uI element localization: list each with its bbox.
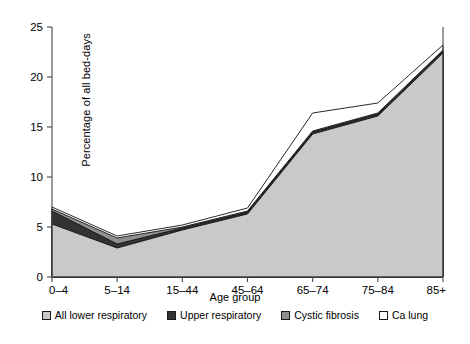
- y-tick-label: 20: [30, 71, 43, 83]
- y-tick-label: 0: [37, 271, 43, 283]
- legend-item-ca-lung[interactable]: Ca lung: [379, 309, 428, 321]
- chart-figure: 05101520250–45–1415–4445–6465–7475–8485+…: [0, 0, 470, 344]
- legend-item-upper-respiratory[interactable]: Upper respiratory: [167, 309, 261, 321]
- legend-swatch-icon: [167, 311, 176, 320]
- y-tick-label: 15: [30, 121, 43, 133]
- y-tick-label: 25: [30, 21, 43, 33]
- legend-label: Ca lung: [392, 309, 428, 321]
- legend-label: Upper respiratory: [180, 309, 261, 321]
- legend-swatch-icon: [281, 311, 290, 320]
- legend-swatch-icon: [379, 311, 388, 320]
- legend-label: All lower respiratory: [55, 309, 147, 321]
- chart-legend: All lower respiratoryUpper respiratoryCy…: [0, 309, 470, 321]
- legend-item-all-lower-respiratory[interactable]: All lower respiratory: [42, 309, 147, 321]
- y-tick-label: 10: [30, 171, 43, 183]
- x-axis-label: Age group: [0, 291, 470, 303]
- y-tick-label: 5: [37, 221, 43, 233]
- y-axis-label: Percentage of all bed-days: [80, 10, 92, 190]
- legend-item-cystic-fibrosis[interactable]: Cystic fibrosis: [281, 309, 359, 321]
- legend-swatch-icon: [42, 311, 51, 320]
- legend-label: Cystic fibrosis: [294, 309, 359, 321]
